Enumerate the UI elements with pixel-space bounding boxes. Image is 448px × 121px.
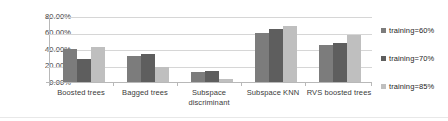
bar-subspace-discriminant-training70 <box>205 71 219 82</box>
bar-rvs-boosted-trees-training85 <box>347 35 361 82</box>
bar-chart: 80.00% 60.00% 40.00% 20.00% 0.00% <box>0 0 448 121</box>
x-tick-label-boosted-trees: Boosted trees <box>49 88 113 98</box>
x-tick-label-line1: Subspace KNN <box>241 88 305 98</box>
legend-swatch-icon <box>381 56 386 61</box>
x-tickmark-0 <box>49 83 50 86</box>
x-tick-label-line2: discriminant <box>177 98 241 108</box>
x-tickmark-1 <box>113 83 114 86</box>
legend-swatch-icon <box>381 84 386 89</box>
legend-label: training=60% <box>389 26 434 35</box>
x-tickmark-5 <box>371 83 372 86</box>
legend-item-training70: training=70% <box>381 54 447 63</box>
bar-rvs-boosted-trees-training60 <box>319 45 333 82</box>
bar-bagged-trees-training85 <box>155 67 169 82</box>
bar-group-boosted-trees <box>59 16 109 82</box>
bar-boosted-trees-training60 <box>63 49 77 82</box>
plot-area <box>49 17 372 83</box>
bottom-divider <box>0 117 448 118</box>
legend-swatch-icon <box>381 28 386 33</box>
bar-group-bagged-trees <box>123 16 173 82</box>
legend-label: training=85% <box>389 82 434 91</box>
y-tickmark-40 <box>46 50 49 51</box>
x-axis-line <box>49 82 372 83</box>
x-tickmark-3 <box>241 83 242 86</box>
bar-group-rvs-boosted-trees <box>315 16 365 82</box>
bar-boosted-trees-training70 <box>77 59 91 82</box>
x-tick-label-bagged-trees: Bagged trees <box>113 88 177 98</box>
x-tick-label-line1: Bagged trees <box>113 88 177 98</box>
x-tick-label-line1: Boosted trees <box>49 88 113 98</box>
x-tickmark-2 <box>177 83 178 86</box>
x-tick-label-line1: Subspace <box>177 88 241 98</box>
bar-boosted-trees-training85 <box>91 47 105 82</box>
bar-subspace-knn-training85 <box>283 26 297 82</box>
bar-rvs-boosted-trees-training70 <box>333 43 347 82</box>
x-tick-label-subspace-knn: Subspace KNN <box>241 88 305 98</box>
y-tickmark-60 <box>46 34 49 35</box>
y-tickmark-20 <box>46 67 49 68</box>
bar-bagged-trees-training60 <box>127 56 141 82</box>
x-tick-label-line1: RVS boosted trees <box>303 88 375 98</box>
bar-subspace-knn-training60 <box>255 33 269 83</box>
legend-item-training60: training=60% <box>381 26 447 35</box>
x-tick-label-subspace-discriminant: Subspace discriminant <box>177 88 241 107</box>
legend-label: training=70% <box>389 54 434 63</box>
x-tickmark-4 <box>305 83 306 86</box>
legend: training=60% training=70% training=85% <box>381 26 447 110</box>
bar-subspace-discriminant-training85 <box>219 79 233 82</box>
bar-subspace-discriminant-training60 <box>191 72 205 82</box>
x-tick-label-rvs-boosted-trees: RVS boosted trees <box>303 88 375 98</box>
bar-subspace-knn-training70 <box>269 29 283 82</box>
bar-group-subspace-discriminant <box>187 16 237 82</box>
legend-item-training85: training=85% <box>381 82 447 91</box>
bar-group-subspace-knn <box>251 16 301 82</box>
bar-bagged-trees-training70 <box>141 54 155 82</box>
y-tickmark-80 <box>46 17 49 18</box>
